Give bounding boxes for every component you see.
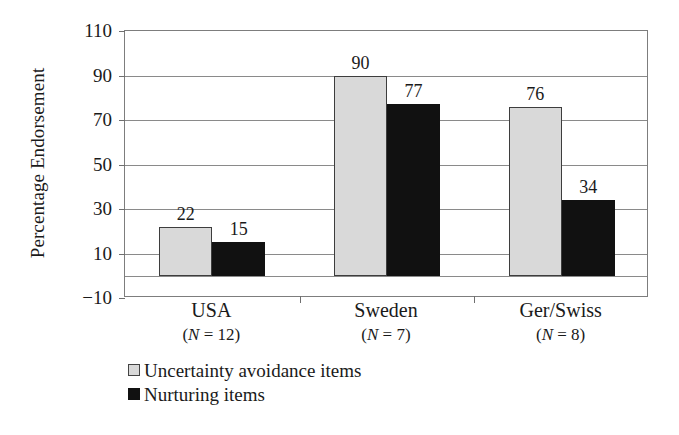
x-category-label: USA(N = 12): [124, 300, 299, 344]
y-tick-label: 70: [40, 110, 112, 129]
y-tick-mark: [119, 209, 125, 210]
bar-value-label: 77: [375, 82, 452, 100]
y-tick-mark: [119, 298, 125, 299]
legend-label: Nurturing items: [144, 385, 265, 404]
bar-value-label: 15: [200, 220, 277, 238]
y-tick-label: 110: [40, 21, 112, 40]
y-tick-mark: [119, 120, 125, 121]
bar: [387, 104, 440, 275]
x-category-sample-size: (N = 12): [124, 326, 299, 344]
y-tick-label: 30: [40, 199, 112, 218]
chart-legend: Uncertainty avoidance itemsNurturing ite…: [128, 358, 361, 406]
y-tick-mark: [119, 76, 125, 77]
y-tick-mark: [119, 31, 125, 32]
legend-item: Uncertainty avoidance items: [128, 358, 361, 382]
bar: [212, 242, 265, 275]
y-tick-mark: [119, 254, 125, 255]
x-category-sample-size: (N = 8): [473, 326, 648, 344]
legend-swatch-icon: [128, 364, 140, 376]
legend-item: Nurturing items: [128, 382, 361, 406]
y-axis-tick-labels: 1109070503010−10: [40, 0, 112, 435]
x-category-name: Sweden: [299, 300, 474, 321]
plot-area: 221590777634: [124, 30, 648, 297]
x-category-name: USA: [124, 300, 299, 321]
y-tick-label: 10: [40, 243, 112, 262]
legend-label: Uncertainty avoidance items: [144, 361, 361, 380]
x-category-name: Ger/Swiss: [473, 300, 648, 321]
x-axis-category-labels: USA(N = 12)Sweden(N = 7)Ger/Swiss(N = 8): [124, 300, 648, 360]
bar-value-label: 76: [497, 85, 574, 103]
y-tick-label: 90: [40, 65, 112, 84]
y-tick-label: −10: [40, 288, 112, 307]
bar-value-label: 34: [550, 178, 627, 196]
y-tick-mark: [119, 165, 125, 166]
bar: [562, 200, 615, 276]
zero-baseline: [125, 276, 647, 277]
bar: [334, 76, 387, 276]
x-category-label: Sweden(N = 7): [299, 300, 474, 344]
y-tick-label: 50: [40, 154, 112, 173]
bar-chart-figure: Percentage Endorsement 1109070503010−10 …: [0, 0, 679, 435]
x-category-sample-size: (N = 7): [299, 326, 474, 344]
legend-swatch-icon: [128, 388, 140, 400]
bar-value-label: 90: [322, 54, 399, 72]
x-category-label: Ger/Swiss(N = 8): [473, 300, 648, 344]
